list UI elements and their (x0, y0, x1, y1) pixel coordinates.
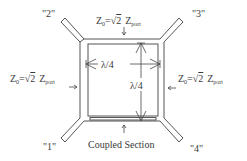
vertical-dim-label: λ/4 (130, 80, 143, 91)
impedance-label-left: Z0=√2Zport (10, 73, 77, 89)
impedance-label-top: Z0=√2Zport (96, 15, 141, 35)
coupler-diagram: λ/4 λ/4 Z0=√2Zport Z0=√2Zport Z0=√2Zport… (0, 0, 247, 161)
coupled-section-strip (90, 118, 156, 121)
port-4-label: "4" (190, 143, 203, 154)
svg-text:Z0=√2Zport: Z0=√2Zport (178, 73, 223, 85)
outer-ring (80, 39, 164, 121)
svg-text:Z0=√2Zport: Z0=√2Zport (10, 73, 55, 85)
horizontal-dim-label: λ/4 (101, 59, 114, 70)
arm-port-4 (157, 114, 183, 142)
arm-port-3 (157, 18, 183, 46)
inner-square (88, 44, 158, 116)
arm-port-1 (61, 114, 87, 142)
coupled-section-label: Coupled Section (88, 139, 154, 150)
svg-text:Z0=√2Zport: Z0=√2Zport (96, 15, 141, 27)
arm-port-2 (61, 18, 87, 46)
port-3-label: "3" (192, 8, 205, 19)
port-1-label: "1" (43, 141, 56, 152)
vertical-dimension: λ/4 (130, 43, 146, 121)
port-2-label: "2" (42, 8, 55, 19)
horizontal-dimension: λ/4 (86, 59, 160, 70)
coupled-section-annotation: Coupled Section (88, 125, 154, 150)
impedance-label-right: Z0=√2Zport (168, 73, 223, 90)
